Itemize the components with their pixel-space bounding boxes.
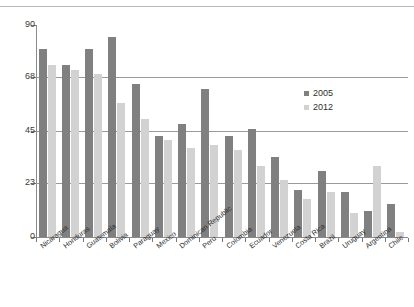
legend-item: 2005 (304, 86, 333, 100)
x-tick-mark (176, 238, 177, 242)
y-tick-label: 90 (5, 20, 35, 29)
x-tick-mark (385, 238, 386, 242)
bar-guatemala-2005 (85, 49, 93, 237)
bar-peru-2005 (201, 89, 209, 237)
x-tick-mark (222, 238, 223, 242)
bar-bolivia-2005 (108, 37, 116, 237)
y-tick-label: 23 (5, 178, 35, 187)
bar-dominican-republic-2012 (187, 148, 195, 238)
bar-chart: 023456890 NicaraguaHondurasGuatemalaBoli… (0, 0, 414, 307)
bar-brazil-2012 (327, 192, 335, 237)
x-tick-mark (408, 238, 409, 242)
x-tick-mark (338, 238, 339, 242)
bar-honduras-2005 (62, 65, 70, 237)
x-tick-mark (269, 238, 270, 242)
x-tick-mark (129, 238, 130, 242)
plot-area (36, 25, 408, 237)
x-tick-mark (245, 238, 246, 242)
bar-paraguay-2005 (132, 84, 140, 237)
bar-venezuela-2012 (280, 180, 288, 237)
top-divider-rule (0, 6, 414, 7)
bar-nicaragua-2012 (48, 65, 56, 237)
y-tick-label: 0 (5, 232, 35, 241)
legend-label: 2005 (313, 88, 333, 98)
bar-ecuador-2012 (257, 166, 265, 237)
bar-mexico-2005 (155, 136, 163, 237)
legend-label: 2012 (313, 102, 333, 112)
y-tick-label: 68 (5, 72, 35, 81)
bar-dominican-republic-2005 (178, 124, 186, 237)
bar-ecuador-2005 (248, 129, 256, 237)
bar-paraguay-2012 (141, 119, 149, 237)
legend-swatch-icon (304, 105, 309, 110)
x-tick-mark (315, 238, 316, 242)
y-tick-label: 45 (5, 126, 35, 135)
x-tick-mark (199, 238, 200, 242)
bar-colombia-2005 (225, 136, 233, 237)
x-tick-mark (152, 238, 153, 242)
bar-uruguay-2005 (341, 192, 349, 237)
bar-nicaragua-2005 (39, 49, 47, 237)
x-tick-mark (83, 238, 84, 242)
bar-mexico-2012 (164, 140, 172, 237)
bar-colombia-2012 (234, 150, 242, 237)
bar-argentina-2012 (373, 166, 381, 237)
bar-honduras-2012 (71, 70, 79, 237)
x-tick-mark (59, 238, 60, 242)
legend-item: 2012 (304, 100, 333, 114)
bar-guatemala-2012 (94, 74, 102, 237)
x-tick-mark (362, 238, 363, 242)
bar-bolivia-2012 (117, 103, 125, 237)
legend-swatch-icon (304, 91, 309, 96)
x-tick-mark (106, 238, 107, 242)
x-tick-mark (36, 238, 37, 242)
chart-legend: 20052012 (304, 86, 333, 114)
bar-venezuela-2005 (271, 157, 279, 237)
x-tick-mark (292, 238, 293, 242)
